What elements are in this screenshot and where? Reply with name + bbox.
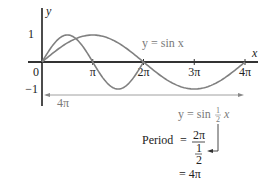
label-sin-half-x-var: x [223, 107, 230, 121]
label-sin-x: y = sin x [142, 36, 184, 50]
x-axis-label: x [251, 46, 258, 60]
period-num: 2π [193, 128, 205, 142]
period-arrow-left-head [44, 93, 50, 97]
x-tick-label: 4π [239, 65, 251, 79]
y-tick-label-neg1: −1 [25, 82, 38, 96]
sine-period-diagram: y x 0π2π3π4π 1 −1 y = sin x 4π y = sin 1… [0, 0, 271, 188]
pointer-arrow-head [207, 149, 213, 153]
period-result: = 4π [179, 167, 201, 181]
x-tick-label: 2π [137, 65, 149, 79]
label-frac-den: 2 [216, 115, 220, 124]
pointer-arrow [213, 124, 218, 151]
period-den-den: 2 [196, 153, 202, 167]
period-arrow-right-head [238, 93, 244, 97]
x-tick-label: π [90, 65, 96, 79]
x-tick-label: 0 [33, 65, 39, 79]
label-sin-half-x: y = sin [178, 107, 211, 121]
y-axis-label: y [45, 4, 52, 18]
period-arrow-label: 4π [57, 96, 69, 110]
y-tick-label-1: 1 [28, 27, 34, 41]
period-word: Period [142, 133, 173, 147]
x-tick-label: 3π [188, 65, 200, 79]
period-eq: = [180, 133, 187, 147]
label-frac-num: 1 [216, 106, 220, 115]
